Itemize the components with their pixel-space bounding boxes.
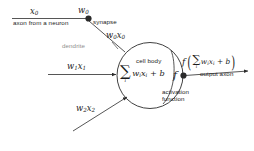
output-summand: wixi + b xyxy=(201,57,230,66)
output-sigma: ∑ i xyxy=(192,54,200,69)
soma-sigma: ∑ i xyxy=(120,64,131,83)
soma-summand: wixi + b xyxy=(132,68,164,78)
label-output-axon: output axon xyxy=(200,71,233,77)
label-w1x1: w1x1 xyxy=(67,62,86,72)
neuron-diagram-canvas: x0 w0 axon from a neuron synapse dendrit… xyxy=(0,0,254,151)
soma-summation-expression: ∑ i wixi + b xyxy=(120,64,165,83)
label-activation-function: activation function xyxy=(162,88,189,102)
label-dendrite: dendrite xyxy=(62,43,85,49)
label-axon-from-a-neuron: axon from a neuron xyxy=(13,20,68,26)
output-fn-symbol: f xyxy=(182,57,185,67)
label-w0x0: w0x0 xyxy=(106,31,125,41)
output-open-paren: ( xyxy=(187,52,191,72)
label-x0: x0 xyxy=(30,7,38,17)
label-synapse: synapse xyxy=(93,19,117,25)
output-expression: f ( ∑ i wixi + b ) xyxy=(182,52,237,72)
label-w2x2: w2x2 xyxy=(76,104,95,114)
synapse-dot xyxy=(85,15,91,21)
label-w0: w0 xyxy=(78,6,89,16)
output-close-paren: ) xyxy=(232,52,236,72)
activation-function-glyph: f xyxy=(173,70,177,81)
